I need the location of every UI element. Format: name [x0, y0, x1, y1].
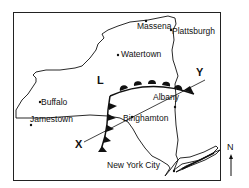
city-label-jamestown: Jamestown [30, 115, 73, 124]
cross-section-y-label: Y [196, 67, 203, 78]
cross-section-x-label: X [75, 139, 82, 150]
city-label-new-york-city: New York City [107, 161, 160, 170]
north-arrow-head [229, 154, 233, 159]
city-label-albany: Albany [153, 93, 179, 102]
long-island-shore [182, 153, 214, 169]
city-label-plattsburgh: Plattsburgh [172, 27, 215, 36]
low-pressure-label: L [97, 75, 104, 86]
state-outline [16, 16, 218, 176]
city-label-massena: Massena [137, 22, 172, 31]
compass-north-label: N [227, 143, 234, 152]
city-label-binghamton: Binghamton [123, 114, 168, 123]
city-label-buffalo: Buffalo [41, 98, 67, 107]
city-label-watertown: Watertown [121, 50, 161, 59]
